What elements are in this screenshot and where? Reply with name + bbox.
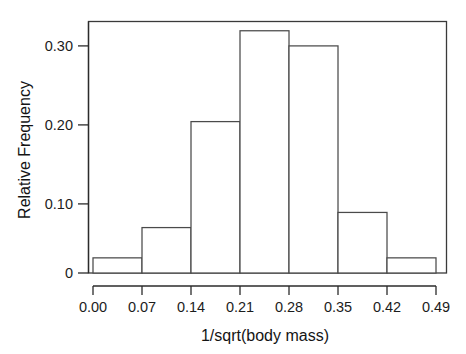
- histogram-bar: [338, 212, 387, 273]
- histogram-bar: [142, 228, 191, 273]
- y-axis-title: Relative Frequency: [16, 81, 33, 219]
- histogram-bar: [191, 122, 240, 273]
- x-tick-label-0.42: 0.42: [373, 299, 401, 315]
- x-tick-label-0.07: 0.07: [128, 299, 156, 315]
- x-tick-label-0.35: 0.35: [324, 299, 352, 315]
- histogram-bar: [240, 31, 289, 273]
- histogram-plot: 0 0.10 0.20 0.30 0.00 0.07 0.14 0.21 0.2…: [0, 0, 466, 354]
- histogram-bars: [93, 31, 436, 273]
- x-axis-title: 1/sqrt(body mass): [201, 327, 329, 344]
- x-tick-label-0.28: 0.28: [275, 299, 303, 315]
- x-tick-label-0.00: 0.00: [79, 299, 107, 315]
- x-tick-label-0.14: 0.14: [177, 299, 205, 315]
- y-tick-label-0.30: 0.30: [45, 38, 73, 54]
- histogram-figure: 0 0.10 0.20 0.30 0.00 0.07 0.14 0.21 0.2…: [0, 0, 466, 354]
- histogram-bar: [289, 46, 338, 273]
- x-tick-label-0.21: 0.21: [226, 299, 254, 315]
- y-tick-label-0.20: 0.20: [45, 117, 73, 133]
- y-tick-label-0: 0: [65, 265, 73, 281]
- y-tick-label-0.10: 0.10: [45, 196, 73, 212]
- histogram-bar: [387, 258, 436, 273]
- x-tick-marks: [93, 286, 436, 295]
- x-tick-label-0.49: 0.49: [422, 299, 450, 315]
- histogram-bar: [93, 258, 142, 273]
- y-tick-marks: [78, 46, 89, 273]
